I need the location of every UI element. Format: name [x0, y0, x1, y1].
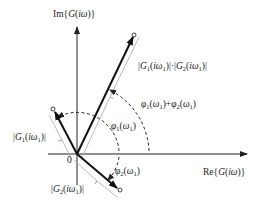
g2-vector [77, 154, 117, 188]
product-vector-endpoint [132, 33, 136, 37]
g1-magnitude-label: |G1(iω1)| [13, 132, 46, 143]
g1-vector-endpoint [51, 107, 55, 111]
imaginary-axis-label: Im{G(iω)} [53, 9, 95, 20]
phi2-angle-label: φ2(ω1) [115, 166, 140, 177]
g2-magnitude-label: |G2(iω1)| [51, 184, 84, 195]
product-magnitude-label: |G1(iω1)|·|G2(iω1)| [138, 61, 207, 72]
phasor-diagram: Im{G(iω)} Re{G(iω)} 0 |G1(iω1)|·|G2(iω1)… [0, 0, 259, 207]
product-vector [77, 37, 133, 154]
phi1-angle-label: φ1(ω1) [111, 121, 136, 132]
product-magnitude-brace [82, 37, 139, 157]
sum-angle-label: φ1(ω1)+φ2(ω1) [141, 99, 196, 110]
real-axis-label: Re{G(iω)} [203, 167, 245, 178]
g2-vector-endpoint [118, 188, 122, 192]
origin-label: 0 [67, 155, 72, 165]
